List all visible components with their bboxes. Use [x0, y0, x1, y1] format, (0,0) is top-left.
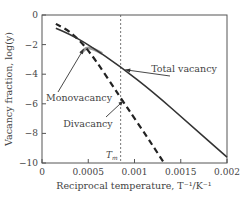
annotation-divacancy-label: Divacancy [63, 118, 113, 129]
y-tick-label: −6 [25, 99, 39, 109]
tm-subscript: m [112, 154, 118, 161]
chart: 0−2−4−6−8−10 00.00050.0010.00150.002 Tm … [0, 0, 250, 200]
x-tick-label: 0.0015 [165, 167, 197, 177]
y-tick-label: −2 [25, 40, 38, 50]
y-axis-title: Vacancy fraction, log(y) [3, 32, 14, 147]
annotation-monovacancy-label: Monovacancy [46, 92, 113, 103]
x-axis-title: Reciprocal temperature, T⁻¹/K⁻¹ [56, 180, 211, 191]
y-tick-label: −4 [25, 69, 39, 79]
annotation-monovacancy-arrow [58, 49, 84, 92]
x-axis: 00.00050.0010.00150.002 [39, 159, 240, 177]
x-tick-label: 0.002 [214, 167, 240, 177]
tm-label: Tm [106, 150, 118, 161]
y-tick-label: −8 [25, 128, 39, 138]
annotation-monovacancy-arrowhead [79, 49, 83, 54]
reference-lines: Tm [106, 15, 121, 163]
x-tick-label: 0 [39, 167, 45, 177]
annotation-total-vacancy-label: Total vacancy [151, 63, 217, 74]
y-tick-label: −10 [19, 158, 38, 168]
plot-frame [42, 15, 227, 163]
x-tick-label: 0.001 [122, 167, 148, 177]
annotations: Total vacancyMonovacancyDivacancy [46, 49, 218, 129]
y-tick-label: 0 [32, 10, 38, 20]
x-tick-label: 0.0005 [73, 167, 105, 177]
